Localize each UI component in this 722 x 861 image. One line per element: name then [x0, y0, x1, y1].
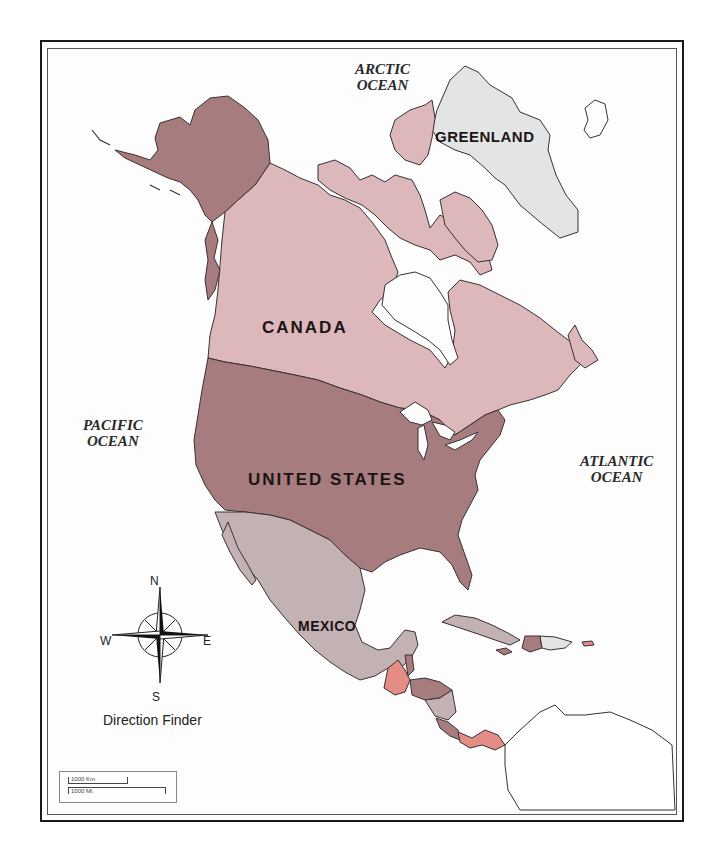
arctic-line2: OCEAN	[355, 77, 410, 93]
jamaica-shape	[496, 648, 512, 655]
atlantic-line1: ATLANTIC	[580, 453, 653, 469]
label-united-states: UNITED STATES	[248, 470, 407, 490]
label-atlantic-ocean: ATLANTIC OCEAN	[580, 453, 653, 485]
pacific-line2: OCEAN	[83, 433, 143, 449]
label-arctic-ocean: ARCTIC OCEAN	[355, 61, 410, 93]
puerto-rico-shape	[582, 641, 594, 646]
haiti-shape	[522, 636, 542, 652]
scale-km-label: 1000 Km	[71, 776, 95, 782]
compass-west: W	[100, 634, 111, 648]
compass-rose-icon	[110, 585, 210, 685]
cuba-shape	[442, 615, 520, 645]
label-canada: CANADA	[262, 318, 348, 338]
direction-finder-caption: Direction Finder	[103, 712, 202, 728]
ellesmere-island	[390, 100, 435, 165]
compass-north: N	[150, 574, 159, 588]
label-pacific-ocean: PACIFIC OCEAN	[83, 417, 143, 449]
label-mexico: MEXICO	[298, 618, 356, 634]
arctic-line1: ARCTIC	[355, 61, 410, 77]
dominican-republic-shape	[540, 636, 572, 650]
costa-rica-shape	[436, 718, 460, 740]
scale-mi-label: 1000 Mi.	[71, 788, 94, 794]
pacific-line1: PACIFIC	[83, 417, 143, 433]
panama-shape	[458, 730, 505, 750]
atlantic-line2: OCEAN	[580, 469, 653, 485]
south-america-outline	[505, 705, 675, 810]
compass-east: E	[203, 634, 211, 648]
label-greenland: GREENLAND	[435, 128, 535, 145]
scale-bar: 1000 Km 1000 Mi.	[59, 771, 177, 803]
iceland-shape	[584, 100, 608, 138]
compass-south: S	[152, 690, 160, 704]
